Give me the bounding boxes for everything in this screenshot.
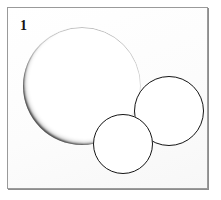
figure-plate: 1	[7, 7, 208, 189]
small-sphere-outline	[93, 114, 153, 174]
figure-number-label: 1	[20, 19, 27, 33]
small-sphere	[93, 114, 153, 174]
figure-page: 1	[0, 0, 221, 200]
